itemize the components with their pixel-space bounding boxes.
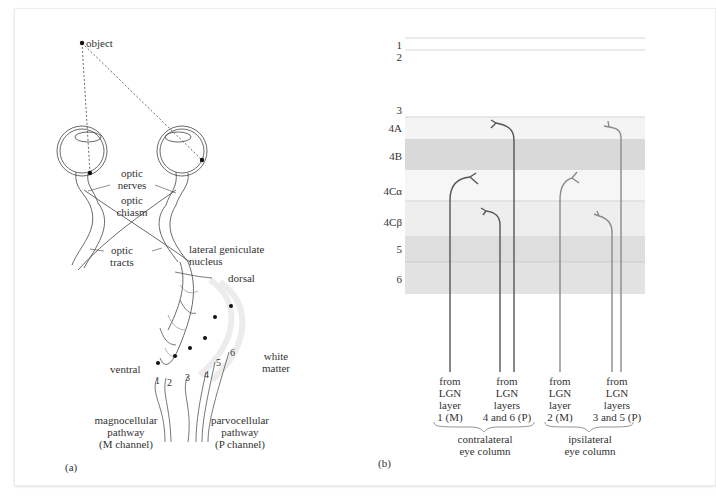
src1-l3: layer [432, 399, 468, 411]
source-label-layer1: from LGN layer 1 (M) [432, 375, 468, 423]
src3-l4: 2 (M) [542, 411, 578, 423]
cortex-layer-4b: 4B [380, 150, 402, 162]
cortex-layer-1: 1 [380, 39, 402, 51]
column-braces [434, 422, 633, 432]
cortex-layer-5: 5 [380, 243, 402, 255]
src4-l1: from [588, 375, 646, 387]
cortex-layer-4c-beta: 4Cβ [376, 216, 402, 228]
src3-l3: layer [542, 399, 578, 411]
contralateral-column-label: contralateral eye column [440, 433, 530, 457]
source-label-layer2: from LGN layer 2 (M) [542, 375, 578, 423]
src3-l2: LGN [542, 387, 578, 399]
cortex-layer-2: 2 [380, 51, 402, 63]
src2-l4: 4 and 6 (P) [478, 411, 536, 423]
panel-b-graphics [0, 0, 716, 498]
src3-l1: from [542, 375, 578, 387]
src4-l2: LGN [588, 387, 646, 399]
src4-l3: layers [588, 399, 646, 411]
ipsi-l1: ipsilateral [545, 433, 635, 445]
src1-l1: from [432, 375, 468, 387]
src2-l3: layers [478, 399, 536, 411]
source-label-layers-4-6: from LGN layers 4 and 6 (P) [478, 375, 536, 423]
ipsilateral-column-label: ipsilateral eye column [545, 433, 635, 457]
ipsi-l2: eye column [545, 445, 635, 457]
source-label-layers-3-5: from LGN layers 3 and 5 (P) [588, 375, 646, 423]
panel-b-label: (b) [378, 457, 391, 469]
cortex-layer-6: 6 [380, 273, 402, 285]
contra-l1: contralateral [440, 433, 530, 445]
src1-l2: LGN [432, 387, 468, 399]
src1-l4: 1 (M) [432, 411, 468, 423]
contra-l2: eye column [440, 445, 530, 457]
src2-l1: from [478, 375, 536, 387]
src2-l2: LGN [478, 387, 536, 399]
src4-l4: 3 and 5 (P) [588, 411, 646, 423]
cortex-layer-3: 3 [380, 104, 402, 116]
cortex-layer-4c-alpha: 4Cα [376, 185, 402, 197]
cortex-layer-4a: 4A [380, 122, 402, 134]
